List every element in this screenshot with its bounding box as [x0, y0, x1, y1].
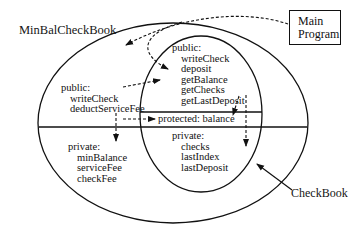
inner-private-item: lastDeposit [172, 163, 228, 174]
inner-private-section: private: checks lastIndex lastDeposit [172, 131, 228, 173]
outer-public-item: deductServiceFee [61, 104, 145, 115]
main-program-box: Main Program [289, 10, 341, 45]
outer-private-item: checkFee [68, 174, 127, 185]
inner-public-section: public: writeCheck deposit getBalance ge… [172, 43, 245, 107]
outer-private-section: private: minBalance serviceFee checkFee [68, 142, 127, 184]
main-to-outer-arrow [126, 16, 288, 45]
inner-public-item: getLastDeposit [172, 96, 245, 107]
main-program-line2: Program [298, 28, 340, 41]
outer-class-label: MinBalCheckBook [19, 24, 116, 36]
outer-public-header: public: [61, 83, 145, 94]
inner-public-header: public: [172, 43, 245, 54]
outer-private-header: private: [68, 142, 127, 153]
inner-private-header: private: [172, 131, 228, 142]
inner-protected-label: protected: balance [158, 113, 235, 125]
outer-public-section: public: writeCheck deductServiceFee [61, 83, 145, 115]
inner-class-label: CheckBook [291, 187, 348, 199]
